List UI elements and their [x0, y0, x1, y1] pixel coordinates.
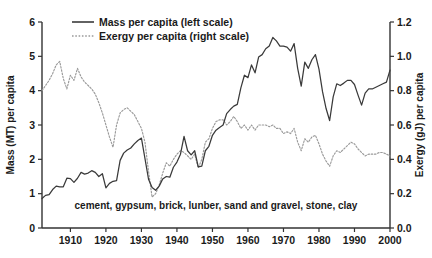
x-axis-tick-label: 1910 — [59, 234, 83, 246]
legend-label-exergy: Exergy per capita (right scale) — [99, 30, 249, 42]
y-axis-left-tick-label: 5 — [29, 50, 35, 62]
y-axis-right-title: Exergy (gJ) per capita — [414, 72, 425, 177]
x-axis-tick-label: 1920 — [94, 234, 118, 246]
x-axis-tick-label: 1950 — [201, 234, 225, 246]
y-axis-left-title: Mass (MT) per capita — [5, 75, 16, 174]
y-axis-left-tick-label: 6 — [29, 16, 35, 28]
x-axis-tick-label: 1970 — [272, 234, 296, 246]
x-axis-tick-label: 1940 — [165, 234, 189, 246]
y-axis-right-tick-label: 0.6 — [397, 119, 412, 131]
series-line-mass — [42, 37, 390, 198]
x-axis: 1910192019301940195019601970198019902000 — [42, 228, 402, 246]
y-axis-right: 0.00.20.40.60.81.01.2 — [390, 16, 412, 234]
y-axis-right-tick-label: 0.2 — [397, 187, 412, 199]
chart-legend: Mass per capita (left scale) Exergy per … — [72, 16, 249, 42]
chart-plot-area: 0123456 0.00.20.40.60.81.01.2 1910192019… — [0, 0, 432, 258]
y-axis-right-tick-label: 0.0 — [397, 222, 412, 234]
y-axis-left-tick-label: 1 — [29, 187, 35, 199]
y-axis-left-tick-label: 2 — [29, 153, 35, 165]
y-axis-left-tick-label: 3 — [29, 119, 35, 131]
x-axis-tick-label: 2000 — [378, 234, 402, 246]
y-axis-right-tick-label: 1.0 — [397, 50, 412, 62]
y-axis-left-tick-label: 4 — [29, 84, 35, 96]
x-axis-tick-label: 1930 — [130, 234, 154, 246]
y-axis-left-tick-label: 0 — [29, 222, 35, 234]
y-axis-right-tick-label: 0.8 — [397, 84, 412, 96]
legend-label-mass: Mass per capita (left scale) — [99, 16, 233, 28]
chart-annotation: cement, gypsum, brick, lunber, sand and … — [75, 200, 358, 211]
y-axis-left: 0123456 — [29, 16, 42, 234]
x-axis-tick-label: 1960 — [236, 234, 260, 246]
y-axis-right-tick-label: 0.4 — [397, 153, 412, 165]
x-axis-tick-label: 1980 — [307, 234, 331, 246]
series-line-exergy — [42, 61, 390, 197]
chart-figure: 0123456 0.00.20.40.60.81.01.2 1910192019… — [0, 0, 432, 258]
y-axis-right-tick-label: 1.2 — [397, 16, 412, 28]
x-axis-tick-label: 1990 — [343, 234, 367, 246]
